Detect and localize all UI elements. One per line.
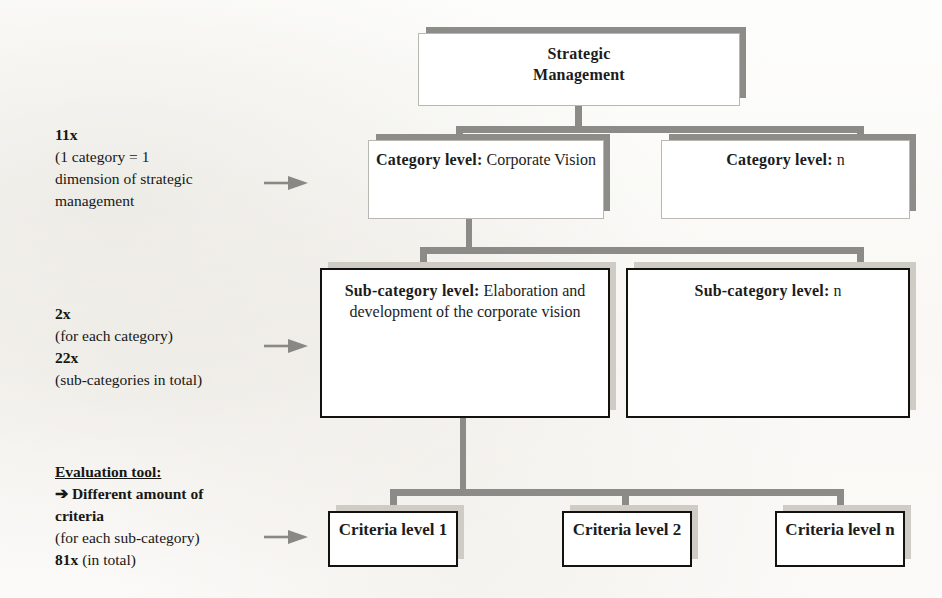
- connector-subcategory-to-criteria-stem: [460, 418, 466, 490]
- box-criteria-level-2[interactable]: Criteria level 2: [562, 511, 692, 567]
- criteria-1-line-1: Criteria: [339, 520, 398, 539]
- box-category-level-n[interactable]: Category level: n: [661, 140, 910, 219]
- criteria-n-line-2: level n: [848, 520, 895, 539]
- annotation-subcategory: 2x (for each category) 22x (sub-categori…: [55, 303, 270, 391]
- box-criteria-level-n[interactable]: Criteria level n: [775, 511, 905, 567]
- annotation-subcategory-each-label: (for each category): [55, 327, 173, 344]
- strategic-management-line-2: Management: [419, 64, 739, 85]
- annotation-criteria-arrow-icon: ➔: [55, 485, 68, 502]
- box-criteria-level-1[interactable]: Criteria level 1: [328, 511, 458, 567]
- annotation-subcategory-count-each: 2x: [55, 305, 71, 322]
- arrow-right-icon-criteria: [264, 529, 308, 545]
- criteria-n-line-1: Criteria: [785, 520, 844, 539]
- annotation-criteria: Evaluation tool: ➔ Different amount of c…: [55, 461, 270, 571]
- box-category-level-corporate-vision[interactable]: Category level: Corporate Vision: [368, 140, 604, 219]
- annotation-criteria-bold-line-1: Different amount of: [72, 485, 203, 502]
- connector-subcategory-bus: [420, 247, 864, 254]
- connector-category-bus: [456, 126, 864, 133]
- box-strategic-management[interactable]: Strategic Management: [418, 33, 740, 106]
- box-subcategory-level-corporate-vision[interactable]: Sub-category level: Elaboration and deve…: [320, 268, 610, 418]
- annotation-category-line-2: dimension of strategic: [55, 170, 193, 187]
- criteria-1-line-2: level 1: [401, 520, 447, 539]
- strategic-management-line-1: Strategic: [419, 43, 739, 64]
- subcategory-left-value-line-2: of the corporate vision: [436, 303, 580, 320]
- connector-criteria-drop-1: [390, 489, 397, 511]
- criteria-2-line-2: level 2: [635, 520, 681, 539]
- subcategory-left-heading: Sub-category level:: [345, 282, 480, 299]
- category-left-heading: Category level:: [376, 151, 483, 168]
- arrow-right-icon-subcategory: [264, 338, 308, 354]
- annotation-category-count: 11x: [55, 126, 77, 143]
- annotation-subcategory-count-total: 22x: [55, 349, 78, 366]
- annotation-criteria-total-label: (in total): [82, 551, 136, 568]
- category-left-value: Corporate Vision: [487, 151, 596, 168]
- annotation-criteria-tool-label: Evaluation tool:: [55, 463, 161, 480]
- connector-criteria-drop-3: [837, 489, 844, 511]
- connector-subcategory-right-drop: [857, 247, 864, 263]
- category-right-value: n: [837, 151, 845, 168]
- annotation-criteria-bold-line-2: criteria: [55, 507, 104, 524]
- annotation-subcategory-total-label: (sub-categories in total): [55, 371, 202, 388]
- category-right-heading: Category level:: [726, 151, 833, 168]
- subcategory-right-heading: Sub-category level:: [695, 282, 830, 299]
- annotation-criteria-scope-label: (for each sub-category): [55, 529, 200, 546]
- box-subcategory-level-n[interactable]: Sub-category level: n: [626, 268, 910, 418]
- subcategory-right-value: n: [833, 282, 841, 299]
- annotation-category-line-3: management: [55, 192, 134, 209]
- connector-subcategory-left-drop: [420, 247, 427, 263]
- annotation-category: 11x (1 category = 1 dimension of strateg…: [55, 124, 270, 212]
- criteria-2-line-1: Criteria: [573, 520, 632, 539]
- connector-criteria-drop-2: [622, 489, 629, 511]
- connector-criteria-bus: [390, 489, 844, 496]
- annotation-criteria-count-total: 81x: [55, 551, 78, 568]
- diagram-canvas: Strategic Management Category level: Cor…: [0, 0, 942, 598]
- annotation-category-line-1: (1 category = 1: [55, 148, 149, 165]
- arrow-right-icon-category: [264, 175, 308, 191]
